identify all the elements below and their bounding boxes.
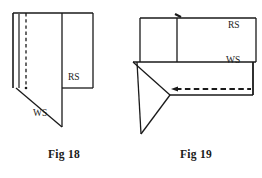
fig18-caption: Fig 18 [0,148,128,160]
fig19-triangle-lower-edge [141,95,170,134]
fig19-stitch-arrowhead-icon [171,87,178,92]
fig18-ws-label: WS [33,108,47,118]
fig19-caption: Fig 19 [132,148,260,160]
fig18-drawing [13,13,93,127]
fig18-rs-label: RS [68,72,80,82]
figure-page: RS WS RS WS Fig 18 Fig 19 [0,0,262,178]
fig19-triangle-vertical-edge [137,62,141,134]
fig19-rs-label: RS [228,20,240,30]
fig18-stitch-end-dot [25,87,28,90]
fig19-drawing [133,14,256,134]
fig19-notch-mark-icon [175,14,181,17]
fig19-ws-label: WS [226,55,240,65]
